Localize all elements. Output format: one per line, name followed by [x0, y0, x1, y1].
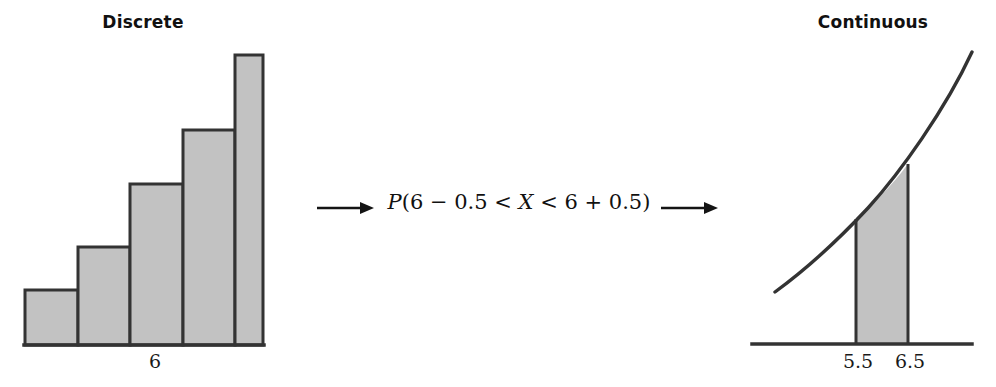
- formula-lt-1: <: [488, 190, 519, 214]
- continuous-density-plot: [752, 52, 972, 345]
- formula-minus: −: [423, 190, 454, 214]
- formula-half-low: 0.5: [454, 190, 487, 214]
- formula-close-paren: ): [642, 190, 650, 214]
- continuous-tick-label-upper: 6.5: [888, 350, 932, 372]
- formula-center-low: 6: [410, 190, 423, 214]
- histogram-bar: [130, 184, 183, 345]
- continuous-tick-label-lower: 5.5: [836, 350, 880, 372]
- formula-symbol-P: P: [388, 190, 402, 214]
- formula-center-high: 6: [565, 190, 578, 214]
- continuous-panel-title: Continuous: [783, 12, 963, 32]
- formula-half-high: 0.5: [609, 190, 642, 214]
- arrow-left-group: [317, 202, 374, 214]
- discrete-tick-label-6: 6: [135, 350, 175, 372]
- histogram-bar: [25, 290, 78, 345]
- continuity-correction-figure: Discrete 6 P(6 − 0.5 < X: [0, 0, 996, 387]
- arrow-right-icon-head: [704, 202, 718, 214]
- histogram-bar: [183, 130, 235, 345]
- histogram-bar: [78, 247, 130, 345]
- formula-variable-X: X: [519, 190, 534, 214]
- formula-lt-2: <: [534, 190, 565, 214]
- arrow-right-group: [661, 202, 718, 214]
- probability-formula: P(6 − 0.5 < X < 6 + 0.5): [384, 190, 654, 214]
- formula-plus: +: [578, 190, 609, 214]
- discrete-histogram: [24, 55, 264, 345]
- arrow-right-icon-head: [360, 202, 374, 214]
- histogram-bar: [235, 55, 263, 345]
- formula-open-paren: (: [402, 190, 410, 214]
